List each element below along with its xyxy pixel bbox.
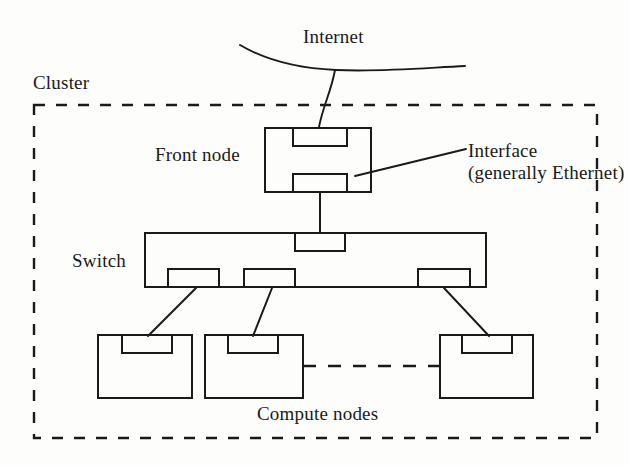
front-node-top-interface	[293, 128, 347, 146]
compute-node-2	[205, 335, 303, 398]
front-node-bottom-interface	[293, 174, 347, 192]
cluster-label: Cluster	[33, 72, 89, 94]
compute-node-3-interface	[462, 335, 512, 353]
interface-callout-line2: (generally Ethernet)	[468, 162, 624, 184]
interface-callout-label: Interface (generally Ethernet)	[468, 140, 624, 184]
compute-node-3-body	[440, 335, 533, 398]
switch-label: Switch	[72, 250, 126, 272]
compute-nodes-label: Compute nodes	[257, 403, 378, 425]
switch-port-3	[418, 269, 470, 287]
interface-callout-line1: Interface	[468, 140, 537, 161]
switch-port-1	[168, 269, 219, 287]
link-switch-to-compute-node-3	[444, 288, 489, 336]
compute-node-2-interface	[228, 335, 278, 353]
internet-cloud-edge	[240, 45, 465, 71]
switch-port-2	[244, 269, 295, 287]
link-switch-to-compute-node-2	[253, 288, 272, 336]
internet-label: Internet	[303, 26, 364, 48]
compute-node-1	[98, 335, 192, 398]
cluster-topology-figure: Cluster Internet Front node Switch Compu…	[0, 0, 629, 465]
switch-body	[145, 233, 486, 287]
diagram-canvas	[0, 0, 629, 465]
compute-node-3	[440, 335, 533, 398]
switch-uplink-port	[295, 233, 345, 251]
compute-node-1-body	[98, 335, 192, 398]
compute-node-1-interface	[122, 335, 172, 353]
front-node	[265, 128, 371, 192]
front-node-body	[265, 128, 371, 192]
compute-node-2-body	[205, 335, 303, 398]
front-node-label: Front node	[155, 144, 240, 166]
link-internet-to-front-node	[319, 70, 335, 127]
link-switch-to-compute-node-1	[148, 288, 196, 336]
switch	[145, 233, 486, 287]
